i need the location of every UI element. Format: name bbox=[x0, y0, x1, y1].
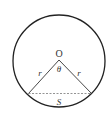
radius-right-label: r bbox=[77, 68, 81, 78]
radius-left-label: r bbox=[38, 68, 42, 78]
radius-left bbox=[29, 60, 60, 94]
radius-right bbox=[59, 60, 92, 94]
center-label: O bbox=[55, 48, 62, 59]
circle-segment-diagram: O θ r r S bbox=[0, 0, 107, 119]
segment-label: S bbox=[57, 97, 62, 107]
angle-label: θ bbox=[57, 64, 62, 74]
